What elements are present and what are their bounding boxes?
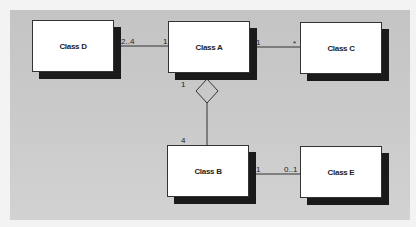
class-b-label: Class B bbox=[194, 167, 221, 176]
multiplicity-c-side: * bbox=[293, 39, 296, 48]
class-d-label: Class D bbox=[59, 42, 86, 51]
multiplicity-d-side: 2..4 bbox=[121, 37, 134, 46]
aggregation-diamond-icon bbox=[196, 79, 218, 103]
multiplicity-b-right: 1 bbox=[256, 165, 260, 174]
multiplicity-a-left: 1 bbox=[163, 37, 167, 46]
class-b-box[interactable]: Class B bbox=[167, 145, 249, 197]
multiplicity-a-right: 1 bbox=[256, 38, 260, 47]
class-c-label: Class C bbox=[327, 44, 354, 53]
multiplicity-a-bottom: 1 bbox=[181, 80, 185, 89]
class-a-label: Class A bbox=[196, 43, 223, 52]
multiplicity-b-top: 4 bbox=[181, 136, 185, 145]
class-a-box[interactable]: Class A bbox=[168, 21, 250, 73]
class-e-box[interactable]: Class E bbox=[300, 146, 382, 198]
class-d-box[interactable]: Class D bbox=[32, 20, 114, 72]
multiplicity-e-side: 0..1 bbox=[284, 165, 297, 174]
class-c-box[interactable]: Class C bbox=[300, 22, 382, 74]
class-e-label: Class E bbox=[328, 168, 355, 177]
